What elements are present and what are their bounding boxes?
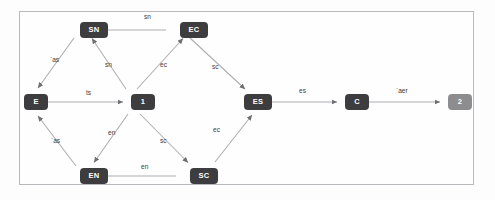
edge-label-sc-en: en	[141, 164, 148, 171]
edge-label-en-e: `as	[51, 138, 60, 145]
edge-label-e-sn: `as	[50, 57, 59, 64]
edge-1-en	[94, 114, 128, 163]
node-SN[interactable]: SN	[80, 22, 108, 38]
node-label: 1	[141, 98, 145, 106]
node-label: SN	[89, 26, 100, 34]
node-label: SC	[199, 172, 210, 180]
node-2[interactable]: 2	[448, 94, 472, 110]
node-SC[interactable]: SC	[190, 168, 218, 184]
node-label: EC	[189, 26, 200, 34]
node-label: 2	[458, 98, 462, 106]
node-label: C	[354, 98, 360, 106]
edge-label-1-sn: sn	[105, 62, 112, 69]
node-EN[interactable]: EN	[80, 168, 108, 184]
edge-label-es-c: es	[299, 88, 306, 95]
edge-label-1-sc: sc	[160, 138, 167, 145]
node-label: E	[33, 98, 38, 106]
node-label: ES	[253, 98, 263, 106]
edge-sc-es	[215, 115, 252, 162]
node-EC[interactable]: EC	[180, 22, 208, 38]
edge-label-sc-es: ec	[213, 127, 220, 134]
edge-label-c-2: `aer	[396, 88, 408, 95]
edge-label-1-ec: ec	[160, 62, 167, 69]
node-E[interactable]: E	[24, 94, 48, 110]
diagram-canvas: SN EC E 1 ES C 2 EN SC sn `as sn ec sc t…	[0, 0, 495, 200]
edge-label-ec-es: sc	[212, 64, 219, 71]
edge-label-e-1: ts	[86, 90, 91, 97]
node-C[interactable]: C	[345, 94, 369, 110]
edge-label-ec-sn: sn	[144, 14, 151, 21]
edge-label-1-en: en	[108, 130, 115, 137]
node-1[interactable]: 1	[131, 94, 155, 110]
node-label: EN	[89, 172, 100, 180]
node-ES[interactable]: ES	[244, 94, 272, 110]
